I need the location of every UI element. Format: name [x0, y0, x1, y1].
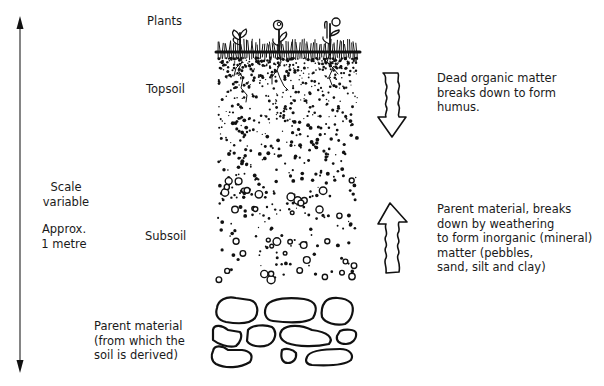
plants-illustration	[216, 18, 360, 60]
approx-depth-label: Approx. 1 metre	[36, 222, 92, 251]
layer-label-topsoil: Topsoil	[146, 82, 185, 97]
process-text-weathering: Parent material, breaks down by weatheri…	[437, 202, 592, 275]
scale-double-arrow-icon	[17, 16, 24, 373]
wavy-down-arrow-icon	[378, 73, 406, 137]
process-text-organic: Dead organic matter breaks down to form …	[437, 71, 556, 115]
scale-label: Scale variable	[38, 180, 94, 209]
wavy-up-arrow-icon	[378, 203, 407, 273]
layer-label-subsoil: Subsoil	[145, 229, 186, 244]
soil-particles	[216, 57, 359, 284]
parent-rock-blocks	[212, 297, 356, 367]
layer-label-plants: Plants	[147, 14, 182, 29]
layer-label-parent-material: Parent material (from which the soil is …	[94, 319, 185, 363]
